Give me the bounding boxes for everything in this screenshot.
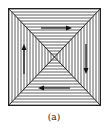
figure-caption: (a) <box>0 112 108 122</box>
hatched-square-diagram <box>8 8 101 106</box>
